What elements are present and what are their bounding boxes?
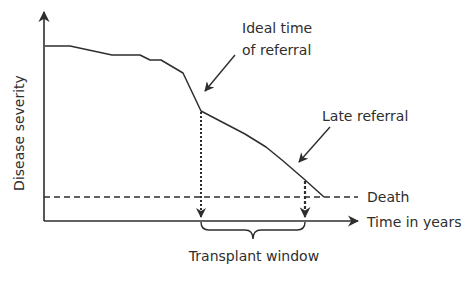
late-referral-label: Late referral (322, 108, 408, 124)
x-axis-label: Time in years (366, 214, 461, 230)
death-label: Death (367, 189, 409, 205)
late-referral-arrow (299, 127, 330, 162)
disease-severity-curve (45, 46, 324, 197)
transplant-window-label: Transplant window (188, 248, 319, 264)
disease-progression-diagram: Disease severity Ideal time of referral … (0, 0, 469, 282)
ideal-referral-arrow (205, 55, 235, 91)
ideal-referral-label-line2: of referral (242, 42, 311, 58)
transplant-window-brace (201, 222, 305, 239)
ideal-referral-label-line1: Ideal time (242, 20, 312, 36)
y-axis-label: Disease severity (11, 75, 27, 191)
